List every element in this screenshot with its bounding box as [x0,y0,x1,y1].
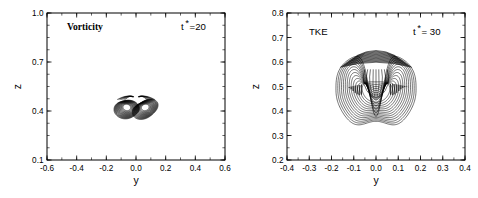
time-symbol: t [413,26,416,37]
vorticity-contour [122,104,131,112]
vorticity-contour [123,104,131,110]
y-tick-label: 0.7 [272,34,284,43]
x-tick-label: 0.2 [160,164,172,173]
y-axis-title: z [249,84,261,89]
plot-frame [47,13,225,160]
contour-lines [336,50,416,124]
x-tick-label: 0.4 [459,164,471,173]
time-symbol: t [181,21,184,32]
time-superscript: * [185,17,189,28]
time-annotation: t*= 30 [413,22,441,37]
x-tick-label: 0.4 [190,164,202,173]
time-value: = 30 [422,26,441,37]
panel-vorticity: -0.6-0.4-0.20.00.20.40.60.10.40.71.0yzVo… [0,0,239,198]
y-tick-label: 0.1 [32,156,44,165]
y-tick-label: 0.7 [32,58,44,67]
contour-figure: -0.6-0.4-0.20.00.20.40.60.10.40.71.0yzVo… [0,0,478,198]
time-superscript: * [417,22,421,33]
x-tick-label: 0.3 [437,164,449,173]
plot-title-label: Vorticity [67,21,103,32]
y-tick-label: 0.6 [272,58,284,67]
panel-tke: -0.4-0.3-0.2-0.10.00.10.20.30.40.20.30.4… [239,0,478,198]
y-axis-title: z [11,84,23,89]
y-tick-label: 0.4 [32,107,44,116]
y-tick-label: 0.5 [272,83,284,92]
x-tick-label: 0.0 [130,164,142,173]
tke-plot: -0.4-0.3-0.2-0.10.00.10.20.30.40.20.30.4… [239,0,478,198]
in-plot-labels: Vorticityt*=20 [67,17,206,32]
x-tick-label: 0.6 [219,164,231,173]
time-annotation: t*=20 [181,17,206,32]
x-tick-label: -0.3 [302,164,317,173]
x-tick-label: 0.0 [370,164,382,173]
plot-area: -0.4-0.3-0.2-0.10.00.10.20.30.40.20.30.4… [249,9,471,186]
y-tick-label: 0.4 [272,107,284,116]
time-value: =20 [190,21,206,32]
in-plot-labels: TKEt*= 30 [309,22,441,37]
x-tick-label: -0.1 [347,164,362,173]
x-tick-label: 0.2 [415,164,427,173]
vorticity-plot: -0.6-0.4-0.20.00.20.40.60.10.40.71.0yzVo… [0,0,239,198]
y-tick-label: 0.3 [272,132,284,141]
x-tick-label: -0.2 [324,164,339,173]
plot-title-label: TKE [309,26,328,37]
axis-ticks: -0.6-0.4-0.20.00.20.40.60.10.40.71.0 [32,9,231,173]
y-tick-label: 0.8 [272,9,284,18]
x-tick-label: -0.2 [99,164,114,173]
x-axis-title: y [133,174,139,186]
contour-lines [114,96,158,119]
plot-area: -0.6-0.4-0.20.00.20.40.60.10.40.71.0yzVo… [11,9,231,186]
x-tick-label: 0.1 [393,164,405,173]
y-tick-label: 0.2 [272,156,284,165]
x-tick-label: -0.4 [70,164,85,173]
y-tick-label: 1.0 [32,9,44,18]
x-axis-title: y [373,174,379,186]
